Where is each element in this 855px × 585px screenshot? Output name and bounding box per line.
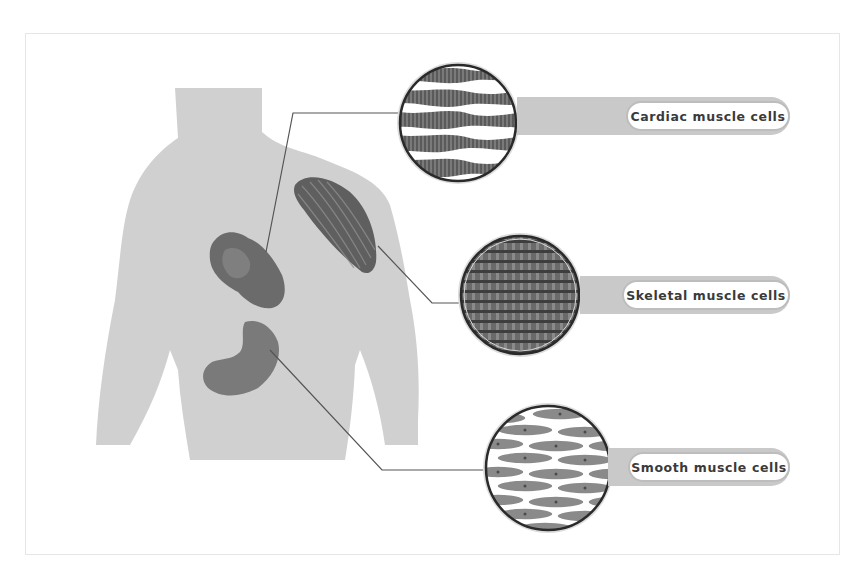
cardiac-cells-magnifier <box>390 60 530 190</box>
cardiac-label: Cardiac muscle cells <box>626 101 790 131</box>
skeletal-label: Skeletal muscle cells <box>622 280 790 310</box>
smooth-label: Smooth muscle cells <box>628 452 790 482</box>
skeletal-cells-magnifier <box>455 230 585 360</box>
